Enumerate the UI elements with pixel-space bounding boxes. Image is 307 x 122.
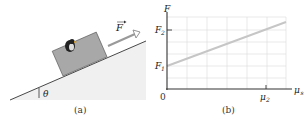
panel-b: F μ s F 2 F 1 μ 2 0 (b) [154, 4, 304, 115]
caption-a: (a) [74, 105, 86, 115]
svg-text:s: s [301, 89, 304, 96]
svg-text:2: 2 [265, 96, 270, 103]
y-tick-label-f2: F 2 [154, 25, 165, 36]
angle-label: θ [43, 89, 49, 99]
svg-text:1: 1 [161, 65, 165, 72]
x-axis-label: μ s [294, 85, 304, 96]
data-line [167, 22, 286, 66]
figure: θ F (a) [0, 0, 307, 122]
force-vector-arrowhead [124, 21, 127, 24]
x-tick-label-mu2: μ 2 [260, 92, 270, 103]
svg-text:2: 2 [160, 29, 165, 36]
panel-a: θ F (a) [10, 21, 146, 116]
force-label: F [115, 22, 124, 33]
force-arrow [108, 30, 140, 46]
y-tick-label-f1: F 1 [154, 61, 165, 72]
origin-label: 0 [160, 92, 166, 102]
y-axis-label: F [163, 4, 171, 14]
caption-b: (b) [222, 105, 235, 115]
svg-text:μ: μ [294, 85, 300, 95]
